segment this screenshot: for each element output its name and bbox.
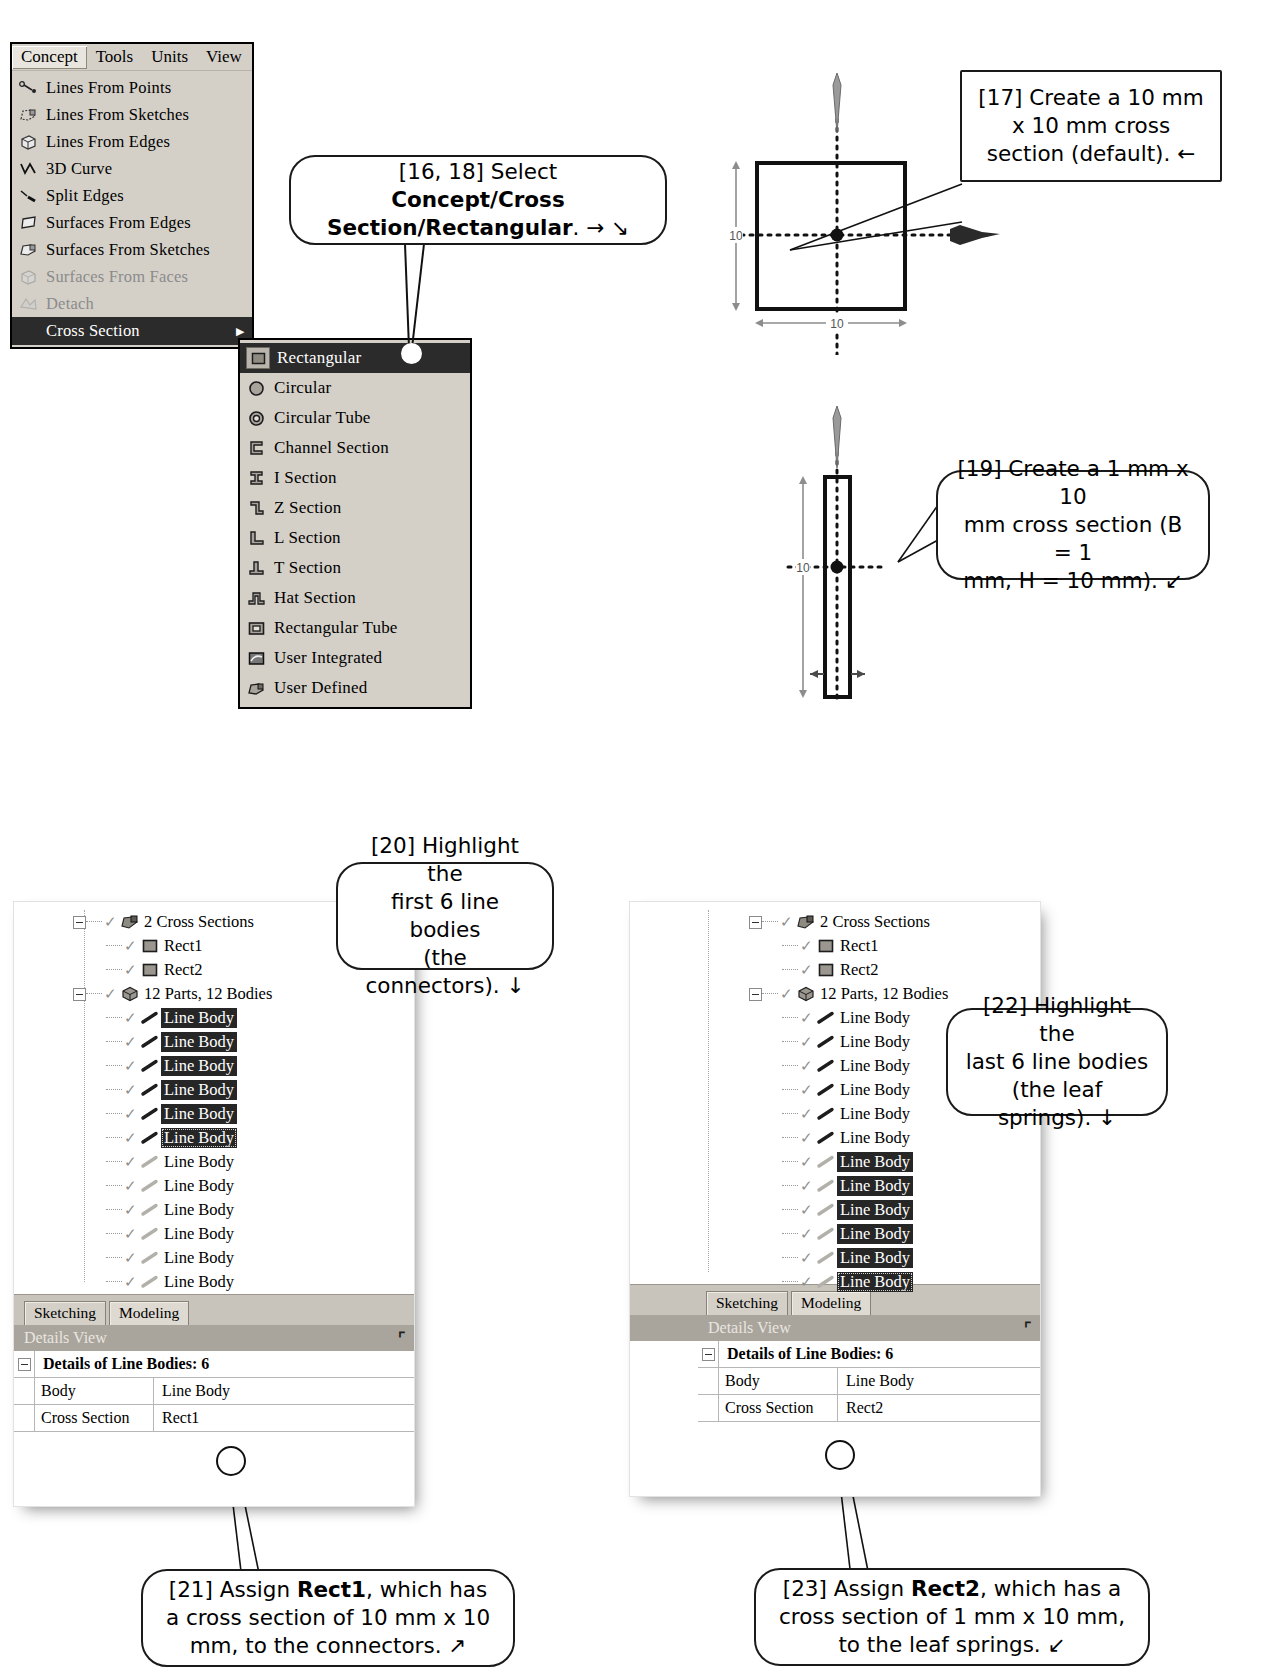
tree-connector [782,1017,798,1019]
check-icon: ✓ [800,1179,815,1194]
tree-node[interactable]: ✓Line Body [14,1054,414,1078]
tree-node[interactable]: ✓Rect2 [690,958,1040,982]
callout-20-line3: (the connectors). ↓ [354,944,536,1000]
menu-item-split-edges[interactable]: Split Edges [12,182,252,209]
details-row-value[interactable]: Rect2 [838,1399,1040,1417]
tree-node[interactable]: ✓Line Body [690,1222,1040,1246]
tree-node[interactable]: ✓Line Body [14,1006,414,1030]
t-section-icon [246,559,267,578]
tree-node[interactable]: ✓Line Body [14,1078,414,1102]
details-row-cross-section[interactable]: Cross Section Rect2 [698,1395,1040,1422]
right-model-tree-panel[interactable]: ✓2 Cross Sections✓Rect1✓Rect2✓12 Parts, … [630,902,1040,1496]
cross-section-submenu[interactable]: Rectangular Circular Circular Tube Chann… [238,338,472,709]
callout-20-line2: first 6 line bodies [354,888,536,944]
submenu-item-l-section[interactable]: L Section [240,523,470,553]
circular-tube-icon [246,409,267,428]
concept-menu[interactable]: Concept Tools Units View Lines From Poin… [10,42,254,349]
tree-connector [106,1017,122,1019]
left-details-table[interactable]: Details of Line Bodies: 6 Body Line Body… [14,1351,414,1432]
line-body-dark-icon [139,1107,161,1121]
tree-node[interactable]: ✓Line Body [14,1246,414,1270]
menu-item-cross-section[interactable]: Cross Section ▶ [12,317,252,345]
details-row-body[interactable]: Body Line Body [14,1378,414,1405]
submenu-item-rectangular-tube[interactable]: Rectangular Tube [240,613,470,643]
tree-node-label: Rect2 [837,960,882,980]
submenu-item-t-section[interactable]: T Section [240,553,470,583]
submenu-item-rectangular[interactable]: Rectangular [240,343,470,373]
menu-item-lines-from-points[interactable]: Lines From Points [12,74,252,101]
pin-icon[interactable]: ⌜ [398,1329,406,1348]
tree-node[interactable]: ✓Rect1 [690,934,1040,958]
tree-node[interactable]: ✓Line Body [690,1174,1040,1198]
pin-icon[interactable]: ⌜ [1024,1319,1032,1338]
check-icon: ✓ [800,1131,815,1146]
details-row-value[interactable]: Rect1 [154,1409,414,1427]
submenu-item-i-section[interactable]: I Section [240,463,470,493]
submenu-item-hat-section[interactable]: Hat Section [240,583,470,613]
details-row-body[interactable]: Body Line Body [698,1368,1040,1395]
tree-node[interactable]: ✓Line Body [690,1270,1040,1294]
tab-modeling[interactable]: Modeling [791,1291,871,1315]
submenu-item-label: Circular [274,378,331,398]
rect-section-icon [139,963,161,977]
menubar-item-concept[interactable]: Concept [12,46,87,69]
tree-node[interactable]: ✓Line Body [690,1150,1040,1174]
callout-20: [20] Highlight the first 6 line bodies (… [336,862,554,970]
svg-text:10: 10 [830,317,844,331]
submenu-item-user-integrated[interactable]: User Integrated [240,643,470,673]
submenu-item-label: Hat Section [274,588,356,608]
tree-node-label: Line Body [161,1248,237,1268]
tree-node-label: Line Body [161,1032,237,1052]
tree-node[interactable]: ✓Line Body [690,1246,1040,1270]
expander-minus-icon[interactable] [72,916,86,929]
callout-16-18-bold: Concept/Cross Section/Rectangular [327,187,573,240]
expander-minus-icon[interactable] [748,988,762,1001]
callout-17-line3: section (default). ← [978,140,1203,168]
menu-item-lines-from-sketches[interactable]: Lines From Sketches [12,101,252,128]
menubar-item-units[interactable]: Units [142,46,197,69]
tab-modeling[interactable]: Modeling [109,1301,189,1325]
tree-node[interactable]: ✓Line Body [14,1270,414,1294]
tab-sketching[interactable]: Sketching [706,1291,788,1315]
right-details-table[interactable]: Details of Line Bodies: 6 Body Line Body… [698,1341,1040,1422]
menubar-item-view[interactable]: View [197,46,251,69]
submenu-item-circular[interactable]: Circular [240,373,470,403]
tree-node[interactable]: ✓Line Body [14,1150,414,1174]
menu-item-surfaces-from-sketches[interactable]: Surfaces From Sketches [12,236,252,263]
tab-sketching[interactable]: Sketching [24,1301,106,1325]
details-row-cross-section[interactable]: Cross Section Rect1 [14,1405,414,1432]
menubar-item-tools[interactable]: Tools [87,46,143,69]
check-icon: ✓ [780,987,795,1002]
submenu-item-label: Rectangular [277,348,361,368]
details-group-row[interactable]: Details of Line Bodies: 6 [698,1341,1040,1368]
submenu-item-user-defined[interactable]: User Defined [240,673,470,703]
tree-node[interactable]: ✓Line Body [14,1030,414,1054]
channel-section-icon [246,439,267,458]
tree-node[interactable]: ✓2 Cross Sections [690,910,1040,934]
tree-node[interactable]: ✓Line Body [14,1174,414,1198]
tree-node[interactable]: ✓Line Body [14,1102,414,1126]
submenu-item-circular-tube[interactable]: Circular Tube [240,403,470,433]
expander-minus-icon[interactable] [748,916,762,929]
menu-bar[interactable]: Concept Tools Units View [12,44,252,71]
collapse-icon[interactable] [14,1351,35,1377]
callout-23: [23] Assign Rect2, which has a cross sec… [754,1568,1150,1666]
callout-22: [22] Highlight the last 6 line bodies (t… [946,1008,1168,1116]
menu-item-lines-from-edges[interactable]: Lines From Edges [12,128,252,155]
left-tab-strip[interactable]: Sketching Modeling [14,1294,414,1325]
check-icon: ✓ [800,1203,815,1218]
tree-node[interactable]: ✓Line Body [14,1198,414,1222]
expander-minus-icon[interactable] [72,988,86,1001]
tree-connector [782,1041,798,1043]
submenu-item-z-section[interactable]: Z Section [240,493,470,523]
menu-item-label: Cross Section [46,321,140,341]
submenu-item-channel-section[interactable]: Channel Section [240,433,470,463]
tree-node[interactable]: ✓Line Body [14,1222,414,1246]
details-group-row[interactable]: Details of Line Bodies: 6 [14,1351,414,1378]
collapse-icon[interactable] [698,1341,719,1367]
menu-item-3d-curve[interactable]: 3D Curve [12,155,252,182]
tree-node[interactable]: ✓Line Body [690,1198,1040,1222]
submenu-item-label: Z Section [274,498,341,518]
tree-node[interactable]: ✓Line Body [14,1126,414,1150]
menu-item-surfaces-from-edges[interactable]: Surfaces From Edges [12,209,252,236]
